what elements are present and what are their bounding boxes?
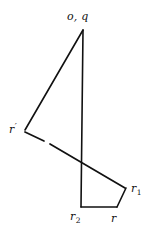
edge-r-to-r1 xyxy=(117,188,126,207)
edge-apex-to-r2 xyxy=(81,30,83,207)
edge-apex-to-rprime xyxy=(25,30,83,130)
prime-mark: ′ xyxy=(15,122,17,132)
vertex-label-r1-subscript: 1 xyxy=(137,188,142,197)
vertex-label-r1: r1 xyxy=(131,183,141,194)
vertex-label-r2-subscript: 2 xyxy=(76,216,81,225)
figure-canvas xyxy=(0,0,156,240)
vertex-label-r2-base: r xyxy=(70,210,75,223)
edge-rprime-to-r1-segment-a xyxy=(25,132,44,141)
vertex-label-r1-base: r xyxy=(131,182,136,195)
edge-rprime-to-r1-segment-b xyxy=(50,144,125,188)
vertex-label-r2: r2 xyxy=(70,211,80,222)
vertex-label-r-prime: r′ xyxy=(9,124,17,135)
geometry-figure: o, q r′ r1 r2 r xyxy=(0,0,156,240)
vertex-label-r-prime-base: r xyxy=(9,123,14,136)
vertex-label-r: r xyxy=(111,213,116,224)
vertex-label-apex: o, q xyxy=(67,11,88,22)
